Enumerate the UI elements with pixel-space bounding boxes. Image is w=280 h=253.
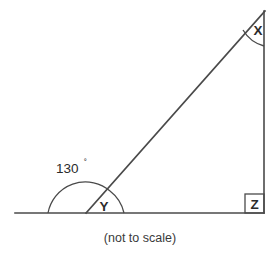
degree-symbol-icon: ˚ (84, 158, 87, 168)
angle-measure-130: 130 (56, 161, 79, 176)
geometry-figure: X Y Z 130 ˚ (not to scale) (0, 0, 280, 253)
angle-label-z: Z (250, 197, 258, 212)
figure-caption: (not to scale) (104, 231, 176, 245)
hypotenuse-segment (86, 11, 265, 213)
angle-label-y: Y (99, 199, 108, 214)
geometry-diagram: X Y Z 130 ˚ (not to scale) (0, 0, 280, 253)
angle-y-arc (110, 191, 124, 213)
angle-label-x: X (253, 23, 262, 38)
